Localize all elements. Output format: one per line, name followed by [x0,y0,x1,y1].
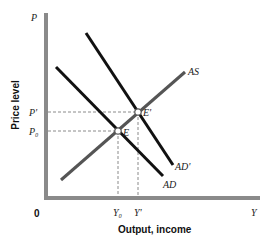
ad-prime-label: AD' [174,161,191,172]
origin-label: 0 [34,208,40,219]
y-axis-title: Price level [10,80,21,130]
ad-curve [56,67,163,176]
ad-as-diagram: P Price level P' P₀ 0 Y₀ Y' Y Output, in… [0,0,275,245]
as-label: AS [187,66,199,77]
ad-label: AD [162,179,177,190]
y-axis-symbol: P [30,12,37,23]
y-prime-label: Y' [134,207,143,218]
p-prime-label: P' [28,107,38,118]
point-e-label: E [122,127,129,138]
point-e-prime-label: E' [142,107,152,118]
point-e-prime-marker [135,109,141,115]
p0-label: P₀ [28,126,39,137]
x-axis-symbol: Y [251,207,258,218]
point-e-marker [115,128,121,134]
y0-label: Y₀ [113,207,123,218]
x-axis-title: Output, income [118,224,192,235]
